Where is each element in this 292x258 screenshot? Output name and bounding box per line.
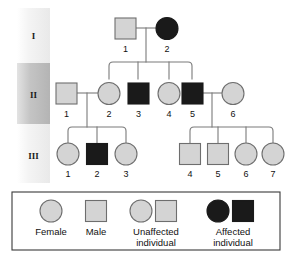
individual-iii-1-symbol[interactable] — [57, 143, 79, 165]
individual-iii-6-symbol[interactable] — [235, 143, 257, 165]
individual-i-1-number: 1 — [123, 44, 128, 54]
generation-iii-individuals: 1 2 3 4 5 6 7 — [57, 143, 284, 179]
individual-iii-7-symbol[interactable] — [262, 143, 284, 165]
individual-ii-1-symbol[interactable] — [56, 83, 77, 104]
individual-iii-6-number: 6 — [243, 169, 248, 179]
individual-ii-3-number: 3 — [136, 109, 141, 119]
individual-ii-4-symbol[interactable] — [158, 83, 180, 105]
generation-ii-individuals: 1 2 3 4 5 6 — [56, 83, 244, 120]
individual-iii-3-symbol[interactable] — [115, 143, 137, 165]
generation-label-ii: II — [30, 90, 38, 100]
legend-label-unaffected-line1: Unaffected — [133, 226, 179, 237]
generation-sidebar: I II III — [17, 8, 50, 183]
individual-ii-6-number: 6 — [230, 109, 235, 119]
individual-iii-5-symbol[interactable] — [208, 144, 229, 165]
legend-unaffected-circle-icon — [130, 200, 152, 222]
generation-label-iii: III — [28, 151, 39, 161]
individual-ii-2-number: 2 — [106, 109, 111, 119]
individual-i-1-symbol[interactable] — [115, 18, 136, 39]
legend-affected-circle-icon — [207, 200, 229, 222]
legend-affected-square-icon — [233, 201, 254, 222]
legend-label-male: Male — [86, 226, 107, 237]
individual-iii-3-number: 3 — [123, 169, 128, 179]
individual-iii-7-number: 7 — [270, 169, 275, 179]
individual-iii-2-number: 2 — [94, 169, 99, 179]
individual-ii-4-number: 4 — [166, 109, 171, 119]
individual-ii-1-number: 1 — [64, 109, 69, 119]
individual-i-2-symbol[interactable] — [156, 18, 178, 40]
legend-label-affected-line1: Affected — [216, 226, 251, 237]
individual-iii-2-symbol[interactable] — [87, 144, 108, 165]
sibship-bar-ii-b — [190, 127, 273, 143]
individual-iii-1-number: 1 — [65, 169, 70, 179]
individual-iii-4-symbol[interactable] — [180, 144, 201, 165]
individual-ii-2-symbol[interactable] — [98, 83, 120, 105]
individual-iii-4-number: 4 — [187, 169, 192, 179]
individual-ii-3-symbol[interactable] — [128, 83, 149, 104]
pedigree-chart: I II III — [0, 0, 292, 258]
sibship-bar-i — [109, 62, 192, 79]
individual-iii-5-number: 5 — [215, 169, 220, 179]
legend-label-female: Female — [35, 226, 67, 237]
generation-label-i: I — [32, 31, 36, 41]
pedigree-canvas: I II III — [0, 0, 292, 258]
legend-square-unaffected-icon — [86, 201, 107, 222]
legend-circle-unaffected-icon — [40, 200, 62, 222]
individual-i-2-number: 2 — [164, 44, 169, 54]
legend-label-affected-line2: individual — [213, 237, 253, 248]
individual-ii-5-symbol[interactable] — [182, 83, 203, 104]
legend-item-male: Male — [86, 201, 107, 238]
legend-label-unaffected-line2: individual — [136, 237, 176, 248]
legend-unaffected-square-icon — [156, 201, 177, 222]
individual-ii-5-number: 5 — [190, 109, 195, 119]
individual-ii-6-symbol[interactable] — [222, 83, 244, 105]
legend: Female Male Unaffected individual Affect… — [12, 192, 280, 250]
